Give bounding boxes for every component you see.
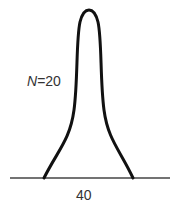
sample-size-annotation: N=20	[27, 73, 61, 89]
distribution-chart	[0, 0, 180, 204]
n-value: =20	[37, 73, 61, 89]
x-tick-label-center: 40	[76, 187, 92, 203]
bell-curve	[44, 10, 133, 178]
n-variable: N	[27, 73, 37, 89]
